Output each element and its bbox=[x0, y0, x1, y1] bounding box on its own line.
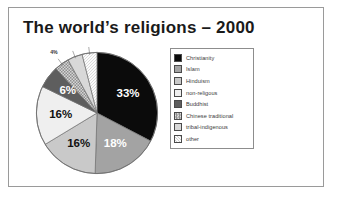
pie-value-label-buddhist: 6% bbox=[59, 84, 76, 96]
legend-label: tribal-indigenous bbox=[186, 124, 228, 130]
legend-label: Buddhist bbox=[186, 101, 208, 107]
legend-swatch-islam bbox=[174, 65, 182, 73]
legend-swatch-tribal-indigenous bbox=[174, 123, 182, 131]
legend-swatch-chinese-traditional bbox=[174, 112, 182, 120]
chart-title: The world’s religions – 2000 bbox=[23, 18, 255, 38]
chart-frame: The world’s religions – 2000 33%18%16%16… bbox=[8, 7, 324, 187]
legend-item[interactable]: Hinduism bbox=[174, 75, 249, 87]
legend-label: Christianity bbox=[186, 55, 214, 61]
pie-value-label-christianity: 33% bbox=[117, 87, 140, 99]
legend-item[interactable]: tribal-indigenous bbox=[174, 122, 249, 134]
legend-label: Chinese traditional bbox=[186, 113, 233, 119]
legend-item[interactable]: non-religous bbox=[174, 87, 249, 99]
pie-chart: 33%18%16%16%6%4%4%4% bbox=[31, 47, 163, 179]
pie-value-label-hinduism: 16% bbox=[67, 137, 90, 149]
legend-item[interactable]: Buddhist bbox=[174, 98, 249, 110]
legend-label: Hinduism bbox=[186, 78, 210, 84]
legend-swatch-non-religous bbox=[174, 89, 182, 97]
legend-label: other bbox=[186, 136, 199, 142]
legend-swatch-other bbox=[174, 135, 182, 143]
legend-item[interactable]: other bbox=[174, 133, 249, 145]
legend-item[interactable]: Islam bbox=[174, 64, 249, 76]
legend-swatch-christianity bbox=[174, 54, 182, 62]
legend-label: Islam bbox=[186, 66, 200, 72]
legend-label: non-religous bbox=[186, 90, 217, 96]
chart-legend: Christianity Islam Hinduism non-religous… bbox=[170, 48, 254, 149]
legend-swatch-buddhist bbox=[174, 100, 182, 108]
pie-value-label-chinese-traditional: 4% bbox=[50, 49, 58, 55]
pie-value-label-non-religous: 16% bbox=[49, 108, 72, 120]
pie-chart-svg: 33%18%16%16%6%4%4%4% bbox=[31, 47, 163, 179]
pie-value-label-islam: 18% bbox=[104, 137, 127, 149]
legend-item[interactable]: Christianity bbox=[174, 52, 249, 64]
legend-item[interactable]: Chinese traditional bbox=[174, 110, 249, 122]
legend-swatch-hinduism bbox=[174, 77, 182, 85]
